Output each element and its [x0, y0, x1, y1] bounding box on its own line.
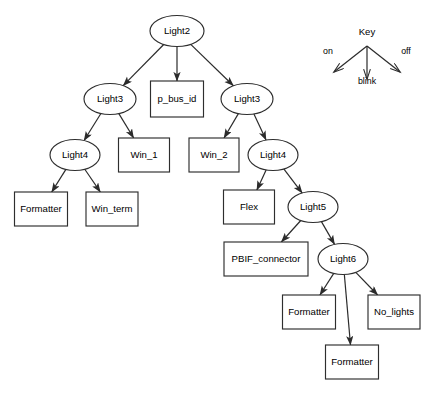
edge-light5-to-pbif-on — [281, 221, 300, 242]
edge-light3_l-to-win_1-off — [119, 114, 134, 138]
node-no_lights[interactable]: No_lights — [368, 295, 420, 329]
edge-light6-to-formatter_2-on — [320, 273, 334, 295]
node-label-light3_l: Light3 — [97, 93, 123, 104]
key-arrow-on — [334, 46, 367, 72]
node-label-light2: Light2 — [164, 25, 190, 36]
edge-light3_l-to-light4_l-on — [84, 114, 101, 141]
key-label-off: off — [401, 46, 411, 56]
node-pbif[interactable]: PBIF_connector — [224, 242, 308, 276]
state-transition-diagram: Light2Light3p_bus_idLight3Light4Win_1Win… — [0, 0, 435, 395]
node-label-pbif: PBIF_connector — [232, 253, 302, 264]
key-title: Key — [359, 26, 376, 37]
key-label-on: on — [323, 46, 333, 56]
node-light4_l[interactable]: Light4 — [50, 140, 100, 171]
edge-light3_r-to-win_2-on — [224, 114, 238, 138]
node-light2[interactable]: Light2 — [150, 16, 204, 47]
key-label-blink: blink — [358, 76, 377, 86]
node-label-light4_r: Light4 — [260, 149, 287, 160]
node-light3_l[interactable]: Light3 — [84, 84, 136, 115]
node-label-light6: Light6 — [330, 253, 356, 264]
edge-light2-to-light3_l-on — [123, 44, 164, 85]
node-label-formatter_2: Formatter — [288, 306, 330, 317]
node-label-win_1: Win_1 — [130, 149, 157, 160]
node-light3_r[interactable]: Light3 — [221, 84, 273, 115]
key-arrow-off — [367, 46, 400, 72]
node-formatter_3[interactable]: Formatter — [326, 345, 379, 379]
node-label-no_lights: No_lights — [374, 306, 414, 317]
edge-light2-to-light3_r-off — [191, 44, 234, 85]
edge-light3_r-to-light4_r-off — [254, 114, 266, 140]
node-p_bus_id[interactable]: p_bus_id — [151, 81, 204, 117]
edge-light4_l-to-win_term-off — [85, 169, 101, 192]
edge-light6-to-formatter_3-blink — [344, 274, 350, 345]
node-flex[interactable]: Flex — [224, 190, 275, 224]
node-label-formatter_3: Formatter — [331, 356, 373, 367]
node-win_term[interactable]: Win_term — [86, 192, 138, 226]
node-label-light3_r: Light3 — [234, 93, 260, 104]
node-label-win_2: Win_2 — [200, 149, 227, 160]
node-label-win_term: Win_term — [91, 203, 132, 214]
node-formatter_1[interactable]: Formatter — [15, 192, 68, 226]
edge-light6-to-no_lights-off — [356, 272, 378, 295]
edge-light4_r-to-light5-off — [284, 169, 302, 193]
node-win_2[interactable]: Win_2 — [189, 138, 239, 172]
edge-light4_l-to-formatter_1-on — [52, 169, 66, 192]
edge-light4_r-to-flex-on — [257, 170, 266, 190]
key-legend: Keyonblinkoff — [323, 26, 411, 87]
node-label-flex: Flex — [240, 201, 258, 212]
node-light4_r[interactable]: Light4 — [248, 140, 298, 171]
node-label-light4_l: Light4 — [62, 149, 89, 160]
node-win_1[interactable]: Win_1 — [119, 138, 170, 172]
node-label-p_bus_id: p_bus_id — [158, 93, 197, 104]
node-label-formatter_1: Formatter — [20, 203, 62, 214]
node-light6[interactable]: Light6 — [318, 244, 368, 275]
edge-light5-to-light6-off — [321, 222, 334, 245]
node-light5[interactable]: Light5 — [288, 192, 338, 223]
node-label-light5: Light5 — [300, 201, 326, 212]
diagram-canvas: Light2Light3p_bus_idLight3Light4Win_1Win… — [0, 0, 435, 395]
node-formatter_2[interactable]: Formatter — [283, 295, 336, 329]
